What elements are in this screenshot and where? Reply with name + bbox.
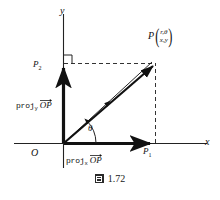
figure-number: 1.72 xyxy=(108,173,126,184)
figure-caption: 1.72 xyxy=(0,173,220,184)
projection-x-word: proj xyxy=(66,157,84,165)
vector-overarrow-icon xyxy=(40,99,52,102)
projection-x-vector-text: OP xyxy=(90,155,102,165)
angle-theta-label: θ xyxy=(88,124,92,133)
point-p-coordinates: r,θ x,y xyxy=(160,28,168,44)
point-p2-subscript: 2 xyxy=(39,65,42,71)
point-p-letter: P xyxy=(148,31,154,41)
projection-y-label: projy OP xyxy=(16,100,52,110)
point-p1-subscript: 1 xyxy=(149,152,152,158)
origin-label: O xyxy=(31,148,38,158)
left-paren: ( xyxy=(155,30,159,42)
vector-overarrow-icon xyxy=(90,154,102,157)
point-p-polar: r,θ xyxy=(160,28,167,36)
point-p-label: P ( r,θ x,y ) xyxy=(148,28,173,44)
x-axis-label: x xyxy=(205,137,209,147)
projection-y-subscript: y xyxy=(34,106,37,112)
right-angle-mark xyxy=(64,55,72,64)
figure-container: y x O θ P1 P2 P ( r,θ x,y ) projy OP pro… xyxy=(0,0,220,200)
right-paren: ) xyxy=(168,30,172,42)
projection-y-vector-text: OP xyxy=(40,100,52,110)
point-p2-label: P2 xyxy=(33,60,42,71)
projection-x-subscript: x xyxy=(84,161,87,167)
point-p-cartesian: x,y xyxy=(160,36,168,44)
projection-x-label: projx OP xyxy=(66,155,102,165)
projection-y-word: proj xyxy=(16,102,34,110)
figure-cjk-glyph-icon xyxy=(95,174,104,183)
y-axis-label: y xyxy=(60,6,64,16)
point-p1-label: P1 xyxy=(143,147,152,158)
